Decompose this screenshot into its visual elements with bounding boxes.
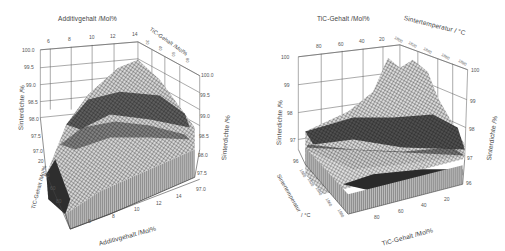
left-z-tick: 96: [293, 158, 299, 164]
left-top-tick: 12: [110, 33, 116, 39]
left-top-right-tick: 80: [185, 58, 190, 62]
left-bottom-tick: 12: [156, 200, 162, 206]
left-bottom-tick: 14: [176, 193, 182, 199]
right-z-tick: 97.5: [197, 170, 207, 176]
right-z-tick: 98: [469, 126, 475, 132]
left-top-tick: 14: [132, 31, 138, 37]
right-bottom-tick: 80: [374, 214, 380, 220]
right-z-tick: 99.5: [200, 92, 210, 98]
left-front-left-tick: 60: [50, 185, 56, 191]
left-z-tick: 99.0: [26, 82, 36, 88]
left-z-tick: 97.5: [31, 133, 41, 139]
right-z-tick: 98.5: [199, 133, 209, 139]
left-front-left-tick: 20: [38, 158, 44, 164]
right-z-tick: 99: [470, 98, 476, 104]
left-top-tick: 10: [89, 34, 95, 40]
left-top-axis-label: Additivgehalt /Mol%: [58, 15, 117, 22]
right-z-tick: 97.0: [196, 186, 206, 192]
right-z-tick: 96: [466, 180, 472, 186]
left-z-tick: 98: [287, 110, 293, 116]
left-top-right-tick: 60: [171, 52, 176, 56]
left-z-tick: 97: [290, 137, 296, 143]
right-top-tick: 60: [338, 41, 344, 47]
right-front-left-axis-unit: / °C: [301, 212, 311, 218]
right-z-tick: 98.0: [198, 152, 208, 158]
left-plot-graphic: [0, 0, 252, 251]
right-z-tick: 100.0: [201, 72, 214, 78]
right-bottom-tick: 40: [421, 202, 427, 208]
right-top-tick: 20: [379, 36, 385, 42]
left-z-tick: 98.5: [28, 99, 38, 105]
left-z-tick: 99: [284, 82, 290, 88]
right-bottom-tick: 60: [398, 208, 404, 214]
left-bottom-tick: 8: [112, 213, 115, 219]
left-top-tick: 8: [68, 36, 71, 42]
right-bottom-tick: 20: [444, 196, 450, 202]
left-front-left-tick: 80: [56, 198, 62, 204]
left-bottom-tick: 10: [134, 206, 140, 212]
right-z-tick: 99.0: [200, 113, 210, 119]
right-z-tick: 97: [467, 155, 473, 161]
left-top-right-tick: 20: [145, 40, 150, 44]
left-bottom-tick: 6: [88, 218, 91, 224]
right-top-tick: 40: [359, 38, 365, 44]
right-z-tick: 100: [471, 67, 479, 73]
left-z-tick: 100: [281, 54, 289, 60]
left-front-left-tick: 40: [44, 172, 50, 178]
left-surface-plot: Additivgehalt /Mol% 6 8 10 12 14 TiC-Geh…: [0, 0, 252, 251]
left-top-tick: 6: [47, 38, 50, 44]
right-surface-plot: TiC-Gehalt /Mol% 80 60 40 20 Sintertempe…: [253, 0, 505, 251]
right-top-tick: 80: [316, 43, 322, 49]
left-z-tick: 98.0: [29, 116, 39, 122]
left-z-tick: 100.0: [22, 47, 35, 53]
left-top-right-tick: 40: [158, 46, 163, 50]
right-top-axis-label: TiC-Gehalt /Mol%: [317, 15, 370, 22]
left-z-tick: 99.5: [24, 64, 34, 70]
left-z-tick: 97.0: [33, 148, 43, 154]
